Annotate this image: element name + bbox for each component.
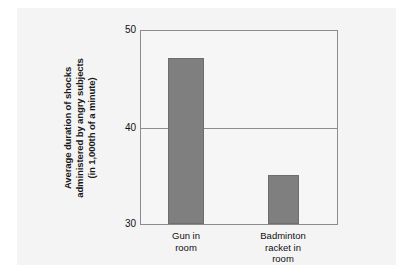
x-tick-label-line: room [235,253,331,265]
bar-chart-figure: Average duration of shocks administered … [0,0,414,280]
y-tick-label-30: 30 [106,219,136,229]
x-tick-label-gun-in-room: Gun in room [138,230,234,253]
x-tick-label-line: Gun in [138,230,234,242]
y-axis-title-line-2: administered by angry subjects [74,30,86,226]
x-tick-label-line: racket in [235,242,331,254]
y-tick-label-40: 40 [106,123,136,133]
plot-area: 50 40 30 Gun in room Badminton racket in… [140,30,338,225]
bar-gun-in-room [168,58,204,224]
x-tick-label-badminton-racket-in-room: Badminton racket in room [235,230,331,265]
x-tick-label-line: Badminton [235,230,331,242]
y-tick-label-50: 50 [106,25,136,35]
bar-badminton-racket-in-room [268,175,299,224]
x-tick-label-line: room [138,242,234,254]
y-axis-title-line-3: (in 1,000th of a minute) [86,30,98,226]
y-axis-title-line-1: Average duration of shocks [62,30,74,226]
